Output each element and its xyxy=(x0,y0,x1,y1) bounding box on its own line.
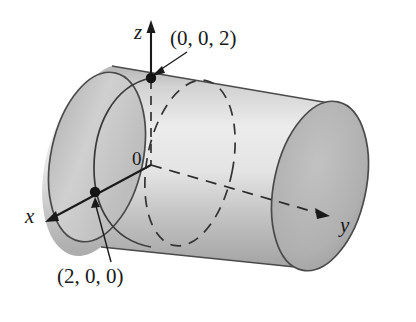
point-label-0-0-2: (0, 0, 2) xyxy=(170,28,237,49)
origin-label: 0 xyxy=(132,149,142,168)
point-label-2-0-0: (2, 0, 0) xyxy=(57,266,124,287)
axis-label-z: z xyxy=(134,22,142,43)
point-0-0-2 xyxy=(146,73,156,83)
figure-canvas: z x y 0 (0, 0, 2) (2, 0, 0) xyxy=(0,0,416,322)
point-2-0-0 xyxy=(90,187,100,197)
cylinder-solid xyxy=(34,63,383,279)
p002-leader-line xyxy=(160,52,187,70)
axis-label-x: x xyxy=(25,206,34,227)
axis-label-y: y xyxy=(340,215,349,236)
z-axis-arrowhead xyxy=(147,20,156,33)
